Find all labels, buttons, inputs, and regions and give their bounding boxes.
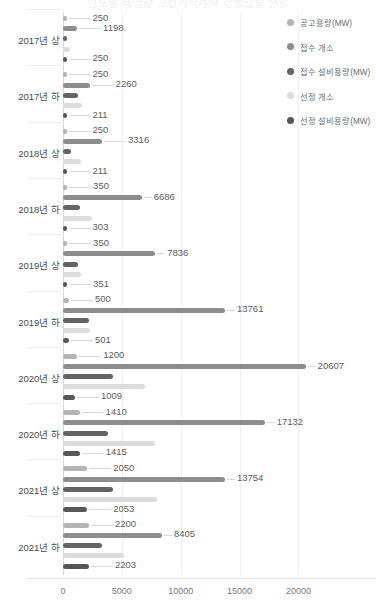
bar[interactable]	[63, 16, 67, 21]
legend-swatch-icon	[287, 19, 294, 26]
label-leader-line	[79, 28, 101, 29]
y-axis-category-label: 2017년 상	[4, 33, 60, 47]
bar[interactable]	[63, 328, 90, 333]
legend-item[interactable]: 선정 설비용량(MW)	[287, 114, 376, 126]
bar[interactable]	[63, 36, 67, 41]
bar[interactable]	[63, 533, 162, 538]
bar[interactable]	[63, 374, 113, 379]
group-separator	[28, 516, 64, 517]
bar-row: 500	[63, 298, 322, 303]
bar-row	[63, 36, 322, 41]
label-leader-line	[144, 197, 152, 198]
bar[interactable]	[63, 477, 225, 482]
bar[interactable]	[63, 384, 145, 389]
bar[interactable]	[63, 364, 306, 369]
legend-item[interactable]: 공고용량(MW)	[287, 16, 376, 28]
label-leader-line	[69, 59, 91, 60]
bar[interactable]	[63, 195, 142, 200]
bar-value-label: 250	[93, 52, 109, 63]
bar-row	[63, 374, 322, 379]
bar[interactable]	[63, 487, 113, 492]
group-separator	[28, 122, 64, 123]
bar[interactable]	[63, 451, 80, 456]
y-axis-category-label: 2018년 상	[4, 146, 60, 160]
bar[interactable]	[63, 72, 67, 77]
bar-row: 2203	[63, 564, 322, 569]
bar[interactable]	[63, 338, 69, 343]
bar[interactable]	[63, 282, 67, 287]
bar-value-label: 350	[93, 237, 109, 248]
bar[interactable]	[63, 159, 81, 164]
bar-value-label: 501	[95, 334, 111, 345]
label-leader-line	[92, 85, 114, 86]
bar[interactable]	[63, 262, 78, 267]
bar[interactable]	[63, 507, 87, 512]
bar[interactable]	[63, 441, 155, 446]
bar[interactable]	[63, 431, 108, 436]
legend-item[interactable]: 접수 개소	[287, 41, 376, 53]
bar[interactable]	[63, 497, 157, 502]
label-leader-line	[79, 356, 101, 357]
label-leader-line	[104, 141, 126, 142]
label-leader-line	[82, 453, 104, 454]
bar[interactable]	[63, 113, 67, 118]
bar[interactable]	[63, 523, 89, 528]
bar-row	[63, 318, 322, 323]
bar-row: 2200	[63, 523, 322, 528]
bar[interactable]	[63, 354, 77, 359]
bar[interactable]	[63, 420, 265, 425]
bar[interactable]	[63, 272, 81, 277]
bar[interactable]	[63, 57, 67, 62]
bar[interactable]	[63, 298, 69, 303]
bar-row	[63, 47, 322, 52]
bar[interactable]	[63, 251, 155, 256]
bar[interactable]	[63, 410, 80, 415]
bar[interactable]	[63, 185, 67, 190]
bar-value-label: 8405	[174, 528, 195, 539]
bar[interactable]	[63, 26, 77, 31]
bar[interactable]	[63, 308, 225, 313]
bar[interactable]	[63, 466, 87, 471]
bar-value-label: 1410	[106, 406, 127, 417]
label-leader-line	[308, 366, 316, 367]
bar-value-label: 250	[93, 68, 109, 79]
bar-row: 1410	[63, 410, 322, 415]
label-leader-line	[227, 479, 235, 480]
bar-value-label: 7836	[167, 247, 188, 258]
y-axis-category-label: 2019년 상	[4, 258, 60, 272]
legend-label: 공고용량(MW)	[300, 16, 352, 28]
legend-item[interactable]: 접수 설비용량(MW)	[287, 65, 376, 77]
bar-row: 2260	[63, 83, 322, 88]
bar[interactable]	[63, 169, 67, 174]
group-separator	[28, 459, 64, 460]
y-axis-category-label: 2021년 상	[4, 483, 60, 497]
bar[interactable]	[63, 103, 82, 108]
bar[interactable]	[63, 129, 67, 134]
bar[interactable]	[63, 564, 89, 569]
bar[interactable]	[63, 83, 90, 88]
bar[interactable]	[63, 543, 102, 548]
bar-row: 1198	[63, 26, 322, 31]
bar[interactable]	[63, 139, 102, 144]
legend-item[interactable]: 선정 개소	[287, 90, 376, 102]
bar-value-label: 211	[93, 109, 108, 120]
bar[interactable]	[63, 93, 78, 98]
bar[interactable]	[63, 241, 67, 246]
bar-row	[63, 431, 322, 436]
bar[interactable]	[63, 226, 67, 231]
bar-row: 250	[63, 16, 322, 21]
bar-row: 13754	[63, 477, 322, 482]
group-separator	[28, 65, 64, 66]
bar[interactable]	[63, 395, 75, 400]
bar[interactable]	[63, 149, 71, 154]
bar-row: 7836	[63, 251, 322, 256]
bar[interactable]	[63, 318, 89, 323]
bar[interactable]	[63, 47, 70, 52]
bar[interactable]	[63, 205, 80, 210]
bar-value-label: 3316	[128, 134, 149, 145]
group-separator	[28, 291, 64, 292]
group-separator	[28, 9, 64, 10]
bar[interactable]	[63, 216, 92, 221]
bar-row: 1415	[63, 451, 322, 456]
bar[interactable]	[63, 553, 124, 558]
